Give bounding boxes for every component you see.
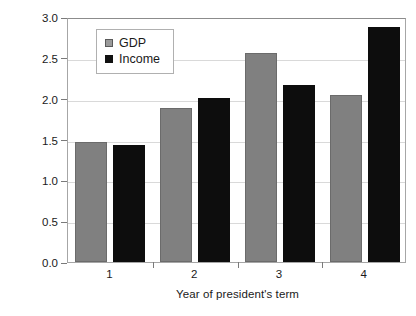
legend-label-gdp: GDP bbox=[119, 36, 146, 50]
x-axis-tick-label: 1 bbox=[106, 268, 112, 280]
legend-item-gdp: GDP bbox=[105, 35, 160, 51]
y-axis-tick-label: 1.0 bbox=[42, 175, 58, 187]
bar-gdp-year-1 bbox=[75, 142, 107, 262]
legend-label-income: Income bbox=[119, 52, 160, 66]
bar-gdp-year-4 bbox=[330, 95, 362, 262]
y-axis-tick-label: 2.0 bbox=[42, 94, 58, 106]
y-axis-tick-label: 0.5 bbox=[42, 216, 58, 228]
legend: GDP Income bbox=[96, 29, 174, 74]
bar-income-year-1 bbox=[113, 145, 145, 262]
legend-item-income: Income bbox=[105, 51, 160, 67]
plot-area: GDP Income bbox=[67, 18, 406, 263]
bar-gdp-year-3 bbox=[245, 53, 277, 262]
y-axis-tick-label: 1.5 bbox=[42, 135, 58, 147]
x-axis-tick-label: 3 bbox=[276, 268, 282, 280]
y-axis-tick-label: 0.0 bbox=[42, 257, 58, 269]
x-axis-tick-mark bbox=[322, 262, 323, 268]
y-axis-title: Average real growth (%) bbox=[0, 0, 26, 316]
x-axis-tick-label: 4 bbox=[360, 268, 366, 280]
legend-swatch-gdp-icon bbox=[105, 39, 113, 47]
bar-income-year-2 bbox=[198, 98, 230, 262]
legend-swatch-income-icon bbox=[105, 55, 113, 63]
y-axis-tick-label: 3.0 bbox=[42, 12, 58, 24]
bar-income-year-3 bbox=[283, 85, 315, 262]
bar-gdp-year-2 bbox=[160, 108, 192, 262]
y-axis-title-text: Average real growth (%) bbox=[0, 95, 38, 221]
x-axis-tick-mark bbox=[153, 262, 154, 268]
y-axis-tick-label: 2.5 bbox=[42, 53, 58, 65]
x-axis-tick-label: 2 bbox=[191, 268, 197, 280]
x-axis-tick-mark bbox=[238, 262, 239, 268]
x-axis-title: Year of president's term bbox=[67, 288, 408, 300]
bar-chart-figure: Average real growth (%) 0.00.51.01.52.02… bbox=[0, 0, 416, 316]
bar-income-year-4 bbox=[368, 27, 400, 262]
